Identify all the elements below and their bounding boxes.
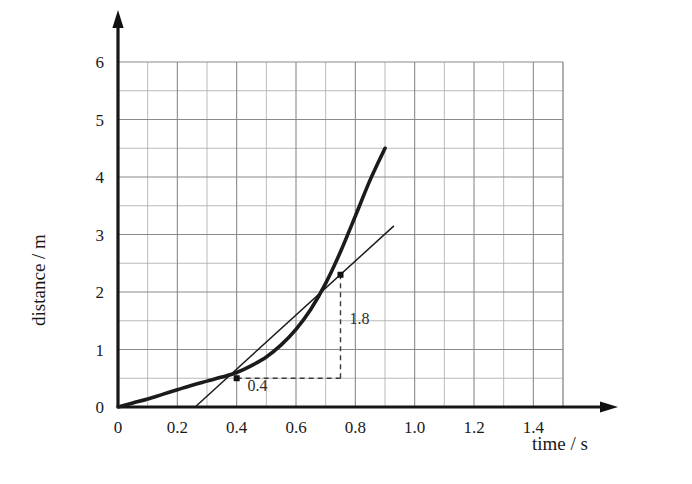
y-tick-label: 6	[96, 53, 105, 72]
y-tick-label: 1	[96, 341, 105, 360]
x-tick-label: 0.6	[285, 418, 306, 437]
x-tick-label: 1.2	[463, 418, 484, 437]
lower-tangent-point-marker	[234, 375, 240, 381]
x-tick-label: 0.8	[345, 418, 366, 437]
y-tick-label: 0	[96, 398, 105, 417]
distance-time-graph: 00.20.40.60.81.01.21.4 0123456 0.4 1.8 t…	[0, 0, 692, 484]
upper-tangent-point-marker	[338, 272, 344, 278]
y-tick-label: 5	[96, 111, 105, 130]
x-tick-label: 0	[114, 418, 123, 437]
x-axis-title: time / s	[532, 433, 588, 454]
x-tick-label: 0.4	[226, 418, 248, 437]
y-tick-label: 2	[96, 283, 105, 302]
rise-annotation-label: 1.8	[349, 310, 369, 327]
run-annotation-label: 0.4	[247, 377, 267, 394]
y-axis-title: distance / m	[28, 234, 49, 326]
x-tick-label: 0.2	[167, 418, 188, 437]
y-tick-label: 4	[96, 168, 105, 187]
x-tick-label: 1.0	[404, 418, 425, 437]
y-tick-label: 3	[96, 226, 105, 245]
